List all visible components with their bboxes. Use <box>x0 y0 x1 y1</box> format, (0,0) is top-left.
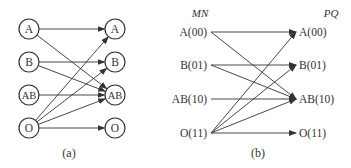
node-label: A <box>111 23 120 35</box>
node-label: O <box>25 122 33 134</box>
edge-arrow <box>36 37 109 121</box>
node-label: AB <box>108 90 123 101</box>
edge-arrow <box>38 99 105 125</box>
node-left: B <box>19 52 39 72</box>
left-header-mn: MN <box>191 7 209 19</box>
node-label: O <box>111 122 119 134</box>
left-node-label: A(00) <box>180 26 208 39</box>
node-label: B <box>25 56 33 68</box>
panel-a: ABABOABABO (a) <box>19 19 125 160</box>
edge-arrow <box>211 99 296 133</box>
node-left: A <box>19 19 39 39</box>
node-right: B <box>105 52 125 72</box>
panel-a-caption: (a) <box>62 146 75 160</box>
left-node-label: O(11) <box>180 127 207 140</box>
right-node-label: AB(10) <box>299 93 334 106</box>
left-node-label: B(01) <box>180 59 207 72</box>
panel-b: MN PQ A(00)B(01)AB(10)O(11)A(00)B(01)AB(… <box>172 7 339 160</box>
panel-a-edges <box>36 29 109 128</box>
blood-type-diagram: ABABOABABO (a) MN PQ A(00)B(01)AB(10)O(1… <box>0 0 351 168</box>
right-node-label: O(11) <box>299 127 326 140</box>
node-right: O <box>105 118 125 138</box>
node-label: A <box>25 23 34 35</box>
node-left: AB <box>19 85 39 105</box>
node-label: B <box>111 56 119 68</box>
left-node-label: AB(10) <box>172 93 207 106</box>
edge-arrow <box>211 32 296 133</box>
edge-arrow <box>211 32 296 99</box>
node-label: AB <box>22 90 37 101</box>
right-header-pq: PQ <box>323 7 339 19</box>
right-node-label: A(00) <box>299 26 327 39</box>
panel-b-edges <box>211 32 296 133</box>
panel-b-caption: (b) <box>251 146 265 160</box>
node-left: O <box>19 118 39 138</box>
node-right: AB <box>105 85 125 105</box>
right-node-label: B(01) <box>299 59 326 72</box>
node-right: A <box>105 19 125 39</box>
